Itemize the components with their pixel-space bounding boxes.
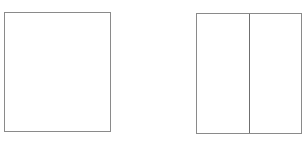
split-frame-right-panel — [250, 14, 302, 133]
single-panel-frame — [4, 12, 111, 132]
split-panel-frame — [196, 13, 302, 134]
split-frame-left-panel — [197, 14, 250, 133]
